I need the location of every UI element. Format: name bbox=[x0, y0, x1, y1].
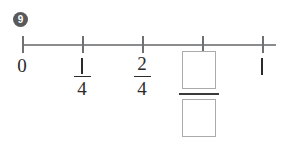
answer-numerator-box[interactable] bbox=[182, 51, 216, 89]
digit-one-stroke-icon bbox=[261, 58, 263, 75]
digit-one-stroke-icon bbox=[81, 58, 83, 74]
tick-mark-1 bbox=[262, 36, 264, 53]
tick-label-0-text: 0 bbox=[17, 55, 27, 76]
number-line-axis bbox=[22, 44, 276, 46]
tick-label-one-quarter: 4 bbox=[60, 54, 104, 99]
tick-mark-2-4 bbox=[142, 36, 144, 53]
number-line: 0 4 2 4 bbox=[0, 0, 285, 156]
fraction-numerator: 2 bbox=[134, 54, 151, 74]
fraction-numerator bbox=[74, 54, 91, 74]
worksheet-canvas: 9 0 4 2 4 bbox=[0, 0, 285, 156]
fraction-one-quarter: 4 bbox=[74, 54, 91, 99]
fraction-bar bbox=[134, 76, 151, 77]
fraction-two-quarters: 2 4 bbox=[134, 54, 151, 99]
tick-mark-0 bbox=[22, 36, 24, 53]
tick-mark-1-4 bbox=[82, 36, 84, 53]
fraction-bar bbox=[74, 76, 91, 77]
fraction-denominator: 4 bbox=[134, 79, 151, 99]
tick-label-one bbox=[240, 57, 284, 76]
fraction-denominator: 4 bbox=[74, 79, 91, 99]
tick-label-two-quarters: 2 4 bbox=[120, 54, 164, 99]
answer-fraction bbox=[182, 51, 219, 137]
tick-label-0: 0 bbox=[0, 56, 44, 76]
answer-fraction-bar bbox=[179, 93, 219, 95]
answer-denominator-box[interactable] bbox=[182, 99, 216, 137]
